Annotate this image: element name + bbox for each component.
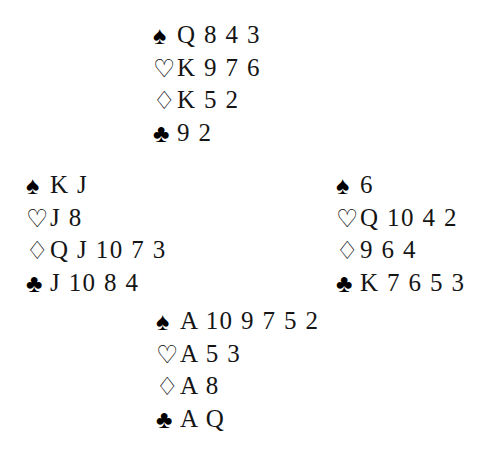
heart-suit-icon: ♡ xyxy=(336,206,360,231)
spade-suit-icon: ♠ xyxy=(336,173,360,198)
hand-north-hearts-ranks: K 9 7 6 xyxy=(177,55,261,80)
spade-suit-icon: ♠ xyxy=(153,23,177,48)
diamond-suit-icon: ♢ xyxy=(153,88,177,113)
club-suit-icon: ♣ xyxy=(153,121,177,146)
hand-south-clubs-row: ♣ A Q xyxy=(156,406,319,439)
hand-east-spades-row: ♠ 6 xyxy=(336,172,465,205)
bridge-deal-diagram: ♠ Q 8 4 3 ♡ K 9 7 6 ♢ K 5 2 ♣ 9 2 ♠ K J … xyxy=(0,0,484,453)
hand-south-diamonds-row: ♢ A 8 xyxy=(156,373,319,406)
hand-south-hearts-row: ♡ A 5 3 xyxy=(156,341,319,374)
hand-west-diamonds-ranks: Q J 10 7 3 xyxy=(50,237,167,262)
diamond-suit-icon: ♢ xyxy=(336,238,360,263)
spade-suit-icon: ♠ xyxy=(26,173,50,198)
hand-north-clubs-ranks: 9 2 xyxy=(177,120,212,145)
hand-north: ♠ Q 8 4 3 ♡ K 9 7 6 ♢ K 5 2 ♣ 9 2 xyxy=(153,22,261,152)
club-suit-icon: ♣ xyxy=(26,271,50,296)
hand-east: ♠ 6 ♡ Q 10 4 2 ♢ 9 6 4 ♣ K 7 6 5 3 xyxy=(336,172,465,302)
hand-east-hearts-ranks: Q 10 4 2 xyxy=(360,205,458,230)
hand-west-hearts-ranks: J 8 xyxy=(50,205,83,230)
hand-south: ♠ A 10 9 7 5 2 ♡ A 5 3 ♢ A 8 ♣ A Q xyxy=(156,308,319,438)
hand-south-diamonds-ranks: A 8 xyxy=(180,373,220,398)
hand-west-spades-ranks: K J xyxy=(50,172,88,197)
hand-south-clubs-ranks: A Q xyxy=(180,406,225,431)
heart-suit-icon: ♡ xyxy=(156,342,180,367)
hand-east-diamonds-ranks: 9 6 4 xyxy=(360,237,417,262)
hand-west-clubs-ranks: J 10 8 4 xyxy=(50,270,139,295)
hand-east-clubs-row: ♣ K 7 6 5 3 xyxy=(336,270,465,303)
hand-west-diamonds-row: ♢ Q J 10 7 3 xyxy=(26,237,167,270)
hand-north-diamonds-ranks: K 5 2 xyxy=(177,87,239,112)
hand-east-hearts-row: ♡ Q 10 4 2 xyxy=(336,205,465,238)
hand-north-spades-ranks: Q 8 4 3 xyxy=(177,22,261,47)
hand-north-spades-row: ♠ Q 8 4 3 xyxy=(153,22,261,55)
diamond-suit-icon: ♢ xyxy=(26,238,50,263)
hand-north-clubs-row: ♣ 9 2 xyxy=(153,120,261,153)
hand-east-diamonds-row: ♢ 9 6 4 xyxy=(336,237,465,270)
diamond-suit-icon: ♢ xyxy=(156,374,180,399)
hand-west-clubs-row: ♣ J 10 8 4 xyxy=(26,270,167,303)
heart-suit-icon: ♡ xyxy=(153,56,177,81)
club-suit-icon: ♣ xyxy=(336,271,360,296)
hand-west: ♠ K J ♡ J 8 ♢ Q J 10 7 3 ♣ J 10 8 4 xyxy=(26,172,167,302)
hand-north-hearts-row: ♡ K 9 7 6 xyxy=(153,55,261,88)
hand-south-spades-row: ♠ A 10 9 7 5 2 xyxy=(156,308,319,341)
hand-south-spades-ranks: A 10 9 7 5 2 xyxy=(180,308,319,333)
hand-east-clubs-ranks: K 7 6 5 3 xyxy=(360,270,465,295)
hand-east-spades-ranks: 6 xyxy=(360,172,374,197)
spade-suit-icon: ♠ xyxy=(156,309,180,334)
hand-west-spades-row: ♠ K J xyxy=(26,172,167,205)
club-suit-icon: ♣ xyxy=(156,407,180,432)
hand-west-hearts-row: ♡ J 8 xyxy=(26,205,167,238)
heart-suit-icon: ♡ xyxy=(26,206,50,231)
hand-south-hearts-ranks: A 5 3 xyxy=(180,341,241,366)
hand-north-diamonds-row: ♢ K 5 2 xyxy=(153,87,261,120)
